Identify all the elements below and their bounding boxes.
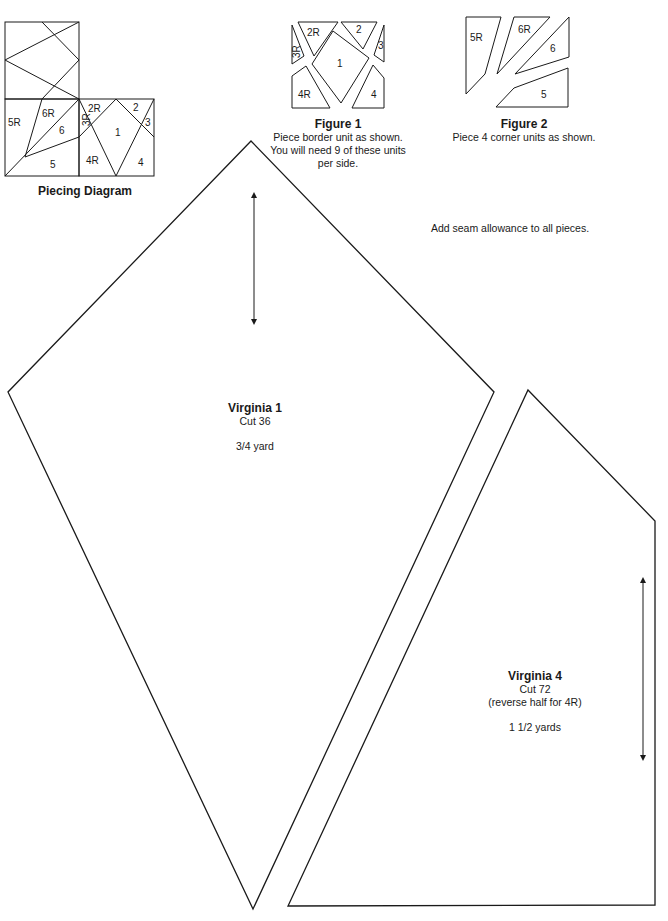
piece-label: 2R — [88, 103, 101, 114]
figure1-title: Figure 1 — [278, 117, 398, 131]
virginia1-cut: Cut 36 — [200, 415, 310, 428]
piece-label: 5R — [8, 117, 21, 128]
figure2-caption: Piece 4 corner units as shown. — [444, 131, 604, 144]
svg-text:3R: 3R — [291, 45, 302, 58]
figure1-caption-line1: Piece border unit as shown. — [258, 131, 418, 144]
svg-text:4R: 4R — [298, 89, 311, 100]
figure1-caption-line2: You will need 9 of these units — [258, 144, 418, 157]
seam-allowance-note: Add seam allowance to all pieces. — [420, 222, 600, 235]
svg-text:6R: 6R — [518, 24, 531, 35]
piece-label: 5 — [50, 159, 56, 170]
virginia1-yardage: 3/4 yard — [200, 440, 310, 453]
virginia1-template — [8, 141, 494, 909]
piece-label: 3 — [145, 117, 151, 128]
piecing-diagram-title: Piecing Diagram — [20, 184, 150, 198]
piece-label: 4 — [138, 157, 144, 168]
piece-label: 4R — [86, 155, 99, 166]
piece-label: 1 — [115, 127, 121, 138]
svg-text:5R: 5R — [470, 32, 483, 43]
piece-label: 6 — [59, 125, 65, 136]
svg-text:3: 3 — [378, 40, 384, 51]
svg-text:4: 4 — [371, 89, 377, 100]
svg-text:1: 1 — [337, 58, 343, 69]
virginia1-name: Virginia 1 — [200, 401, 310, 415]
virginia4-note: (reverse half for 4R) — [470, 696, 600, 709]
svg-text:5: 5 — [541, 89, 547, 100]
figure1-caption-line3: per side. — [258, 157, 418, 170]
piecing-diagram — [5, 22, 154, 176]
svg-text:6: 6 — [550, 43, 556, 54]
svg-text:2R: 2R — [307, 27, 320, 38]
figure2-title: Figure 2 — [464, 117, 584, 131]
svg-text:2: 2 — [356, 24, 362, 35]
virginia4-name: Virginia 4 — [470, 669, 600, 683]
piece-label: 2 — [133, 102, 139, 113]
piece-label: 3R — [81, 113, 92, 126]
virginia4-yardage: 1 1/2 yards — [470, 721, 600, 734]
piece-label: 6R — [42, 108, 55, 119]
virginia4-cut: Cut 72 — [470, 683, 600, 696]
virginia4-template — [288, 390, 655, 906]
